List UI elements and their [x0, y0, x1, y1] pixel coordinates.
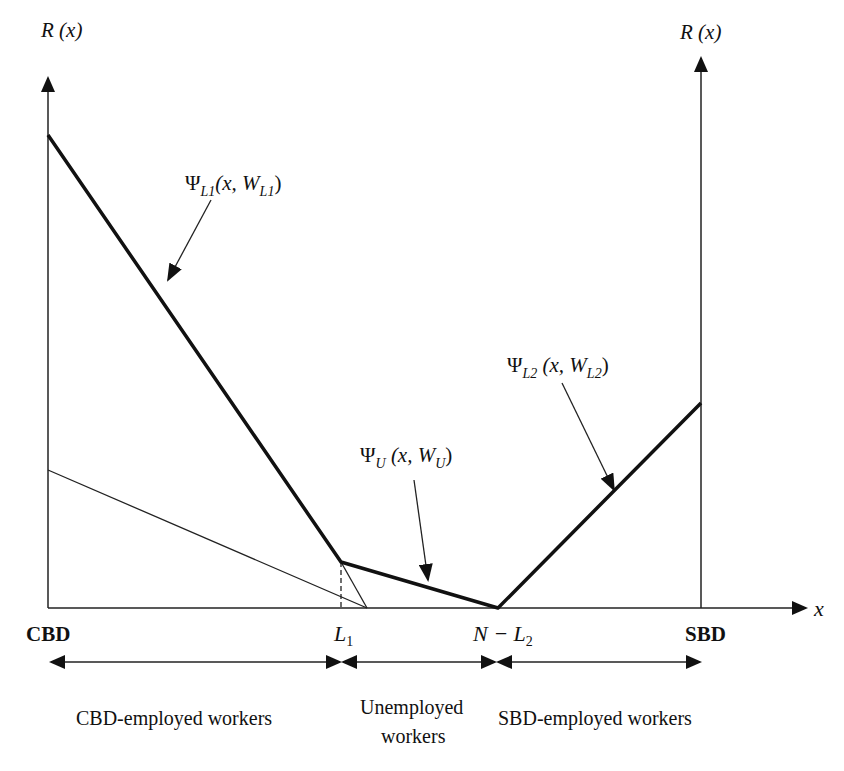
sbd-label: SBD — [685, 622, 726, 646]
right-y-axis-label: R (x) — [679, 20, 721, 44]
psi-u-pointer-arrow — [414, 480, 428, 580]
sbd-workers-label: SBD-employed workers — [498, 707, 692, 730]
unemployed-label-line1: Unemployed — [360, 696, 463, 719]
psi-u-extension-line — [48, 470, 367, 608]
cbd-workers-label: CBD-employed workers — [76, 707, 272, 730]
n-minus-l2-label: N − L2 — [472, 621, 533, 649]
bid-rent-diagram: R (x) R (x) x ΨL1(x, WL1) ΨU (x, WU) ΨL2… — [0, 0, 844, 771]
cbd-label: CBD — [26, 622, 70, 646]
left-y-axis-label: R (x) — [40, 18, 82, 42]
unemployed-label-line2: workers — [381, 725, 446, 747]
l1-label: L1 — [333, 621, 353, 649]
psi-l1-label: ΨL1(x, WL1) — [185, 171, 281, 199]
psi-l1-pointer-arrow — [168, 200, 211, 280]
psi-l2-label: ΨL2 (x, WL2) — [507, 353, 609, 381]
psi-u-label: ΨU (x, WU) — [360, 443, 452, 471]
psi-l2-pointer-arrow — [562, 383, 614, 490]
axes — [48, 58, 806, 608]
x-axis-label: x — [813, 596, 824, 621]
